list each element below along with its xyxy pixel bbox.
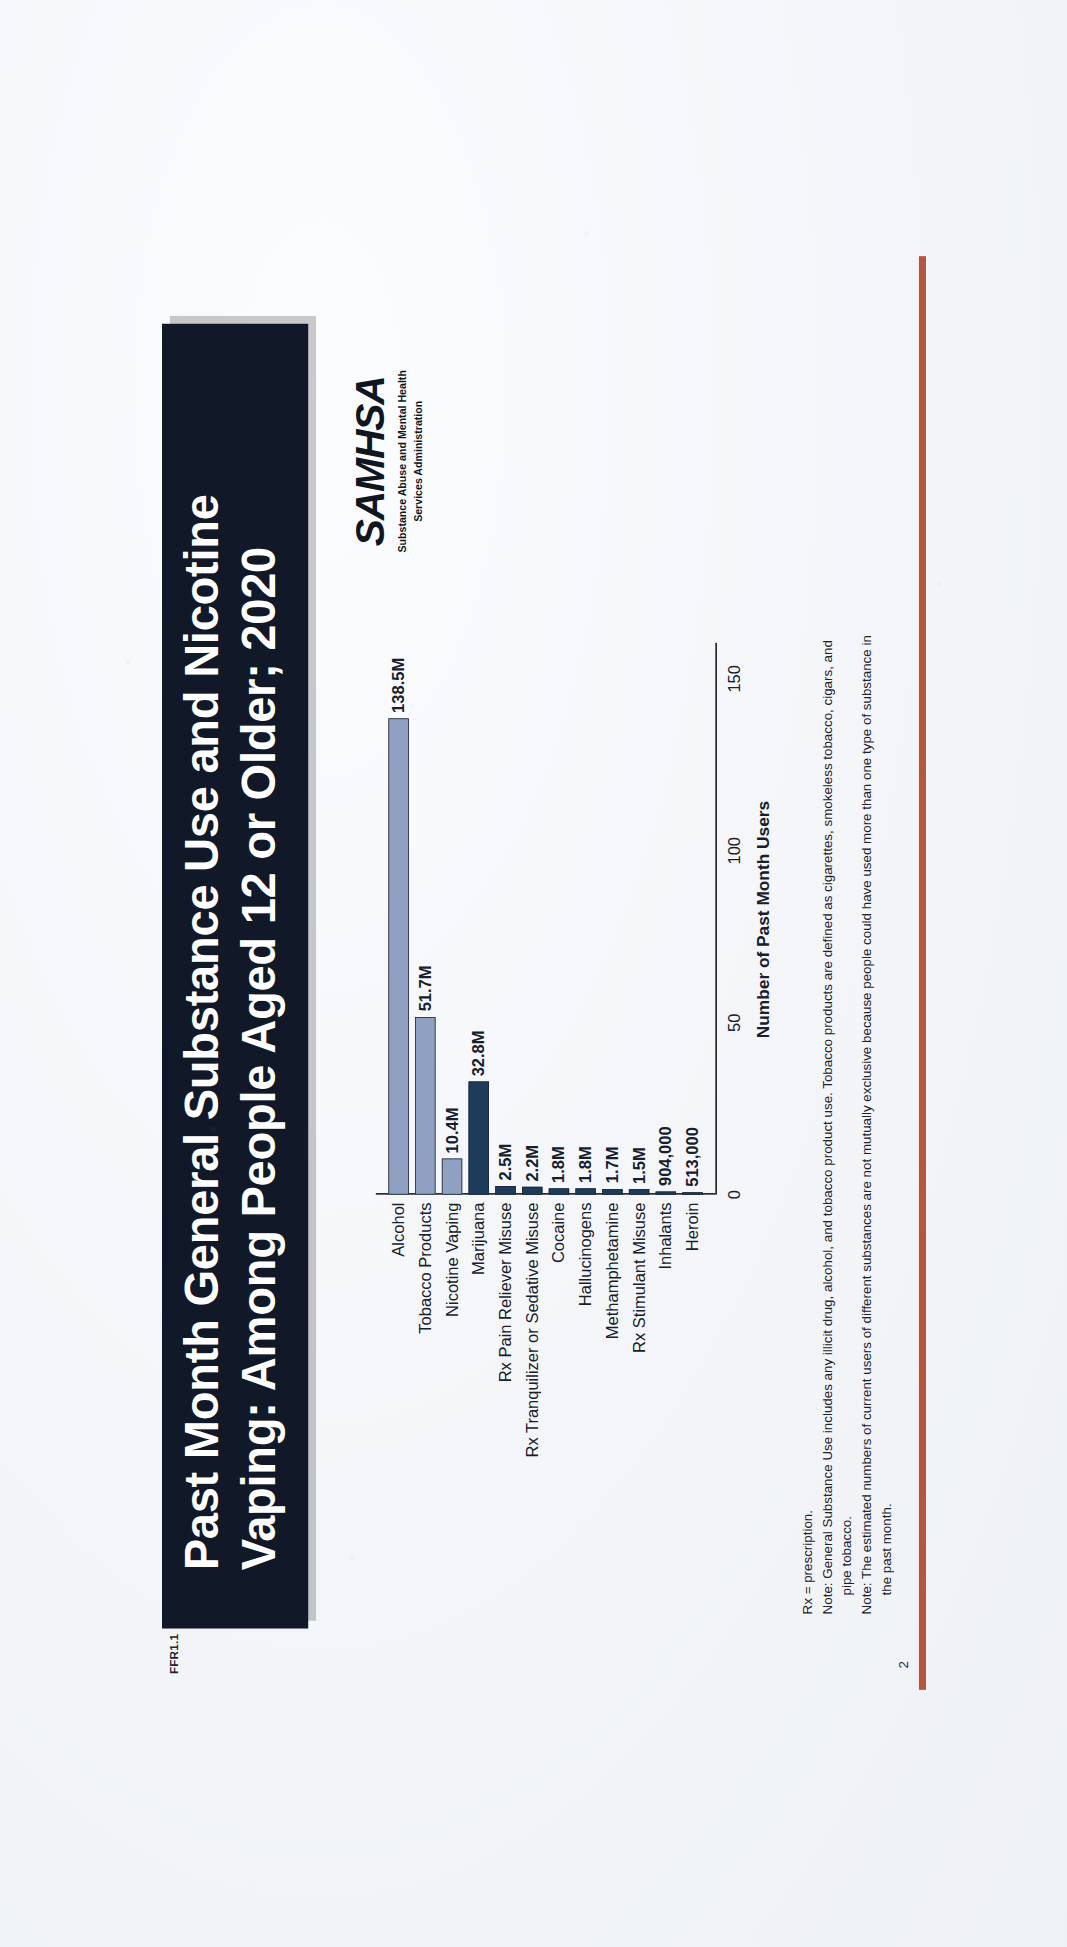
footnote-note2: Note: The estimated numbers of current u… bbox=[858, 420, 877, 1615]
bar-row: Hallucinogens1.8M bbox=[572, 1146, 599, 1194]
bar-row: Alcohol138.5M bbox=[385, 658, 412, 1195]
bar-value-label: 10.4M bbox=[443, 1108, 462, 1154]
bar-value-label: 904,000 bbox=[656, 1126, 675, 1186]
bar-row: Rx Tranquilizer or Sedative Misuse2.2M bbox=[519, 1145, 546, 1195]
bar bbox=[575, 1188, 595, 1194]
samhsa-tagline-line2: Services Administration bbox=[412, 332, 426, 591]
bar bbox=[388, 718, 408, 1194]
x-axis-title: Number of Past Month Users bbox=[753, 644, 773, 1194]
bar-row: Nicotine Vaping10.4M bbox=[439, 1108, 466, 1195]
bar-category-label: Alcohol bbox=[385, 1203, 412, 1257]
bar-value-label: 1.5M bbox=[630, 1147, 649, 1184]
samhsa-wordmark: SAMHSA bbox=[346, 332, 393, 591]
slide-rotation-container: FFR1.1 Past Month General Substance Use … bbox=[140, 256, 926, 1690]
bar bbox=[469, 1082, 489, 1195]
plot-area: Alcohol138.5MTobacco Products51.7MNicoti… bbox=[376, 644, 716, 1194]
footnote-note2-cont: the past month. bbox=[878, 420, 897, 1615]
bar-value-label: 2.5M bbox=[496, 1144, 515, 1181]
bar-row: Marijuana32.8M bbox=[465, 1030, 492, 1194]
bar-row: Cocaine1.8M bbox=[546, 1146, 573, 1194]
bar-value-label: 1.7M bbox=[603, 1147, 622, 1184]
footnote-note1: Note: General Substance Use includes any… bbox=[818, 420, 837, 1615]
bar-category-label: Hallucinogens bbox=[572, 1203, 599, 1307]
bar bbox=[522, 1187, 542, 1195]
footnote-rx: Rx = prescription. bbox=[799, 420, 818, 1615]
bar-row: Rx Pain Reliever Misuse2.5M bbox=[492, 1144, 519, 1195]
samhsa-logo: SAMHSA Substance Abuse and Mental Health… bbox=[346, 332, 425, 591]
footnotes: Rx = prescription. Note: General Substan… bbox=[799, 420, 898, 1615]
bar-chart: Alcohol138.5MTobacco Products51.7MNicoti… bbox=[376, 542, 745, 1454]
bar-category-label: Inhalants bbox=[652, 1203, 679, 1270]
bar bbox=[602, 1189, 622, 1195]
bar-category-label: Tobacco Products bbox=[412, 1203, 439, 1334]
bar-row: Methamphetamine1.7M bbox=[599, 1147, 626, 1195]
footnote-note1-cont: pipe tobacco. bbox=[838, 420, 857, 1615]
axis-tick-label: 0 bbox=[725, 1190, 744, 1199]
bar-value-label: 138.5M bbox=[389, 658, 408, 713]
bar-value-label: 51.7M bbox=[416, 965, 435, 1011]
bar bbox=[495, 1186, 515, 1195]
bar-row: Inhalants904,000 bbox=[652, 1126, 679, 1194]
value-axis-line bbox=[715, 643, 717, 1195]
bar-category-label: Rx Tranquilizer or Sedative Misuse bbox=[519, 1203, 546, 1458]
title-banner: Past Month General Substance Use and Nic… bbox=[162, 324, 308, 1629]
bar bbox=[415, 1017, 435, 1195]
bar-value-label: 513,000 bbox=[683, 1127, 702, 1187]
samhsa-tagline-line1: Substance Abuse and Mental Health bbox=[395, 332, 409, 591]
page-number: 2 bbox=[896, 1661, 912, 1668]
bar-category-label: Methamphetamine bbox=[599, 1203, 626, 1340]
bar bbox=[442, 1159, 462, 1195]
scanned-page: FFR1.1 Past Month General Substance Use … bbox=[0, 0, 1067, 1947]
bar-category-label: Nicotine Vaping bbox=[439, 1203, 466, 1317]
bar-value-label: 32.8M bbox=[469, 1030, 488, 1076]
bar-value-label: 1.8M bbox=[576, 1146, 595, 1183]
bar bbox=[656, 1192, 676, 1195]
bar-category-label: Rx Pain Reliever Misuse bbox=[492, 1203, 519, 1383]
bottom-accent-rule bbox=[919, 256, 926, 1690]
axis-tick-label: 100 bbox=[725, 837, 744, 865]
bar-category-label: Rx Stimulant Misuse bbox=[626, 1203, 653, 1353]
bar-category-label: Heroin bbox=[679, 1203, 706, 1252]
page-title: Past Month General Substance Use and Nic… bbox=[173, 338, 288, 1570]
presentation-slide: FFR1.1 Past Month General Substance Use … bbox=[140, 256, 926, 1690]
axis-tick-label: 50 bbox=[725, 1014, 744, 1032]
bar-value-label: 1.8M bbox=[550, 1146, 569, 1183]
bar bbox=[629, 1189, 649, 1194]
bar-row: Rx Stimulant Misuse1.5M bbox=[626, 1147, 653, 1194]
bar-row: Heroin513,000 bbox=[679, 1127, 706, 1195]
bar-category-label: Cocaine bbox=[546, 1203, 573, 1264]
bar bbox=[549, 1188, 569, 1194]
bar-row: Tobacco Products51.7M bbox=[412, 965, 439, 1194]
figure-id-label: FFR1.1 bbox=[167, 1634, 180, 1674]
axis-tick-label: 150 bbox=[725, 665, 744, 693]
bar-value-label: 2.2M bbox=[523, 1145, 542, 1182]
bar bbox=[682, 1192, 702, 1194]
bar-category-label: Marijuana bbox=[465, 1203, 492, 1275]
